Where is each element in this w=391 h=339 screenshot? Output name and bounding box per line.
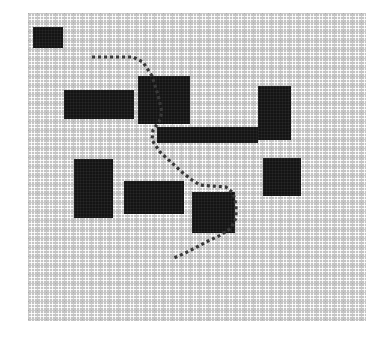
obstacle-center-large-block bbox=[138, 76, 190, 124]
obstacle-right-tall-block bbox=[258, 86, 291, 140]
obstacle-lower-mid-wide-block bbox=[124, 181, 184, 214]
obstacle-top-left-start-block bbox=[33, 27, 63, 48]
obstacle-goal-adjacent-block bbox=[192, 192, 235, 233]
grid-path-visualization bbox=[0, 0, 391, 339]
occupancy-grid-canvas[interactable] bbox=[28, 13, 366, 321]
obstacle-right-mid-block bbox=[263, 158, 301, 196]
obstacle-left-wide-block bbox=[64, 90, 134, 119]
obstacle-center-wall-bar bbox=[157, 127, 258, 143]
obstacle-lower-left-tall-block bbox=[74, 159, 113, 218]
